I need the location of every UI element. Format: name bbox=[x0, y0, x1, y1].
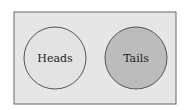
tails-label: Tails bbox=[123, 52, 149, 65]
venn-diagram: Heads Tails bbox=[0, 0, 190, 110]
heads-label: Heads bbox=[37, 52, 73, 65]
